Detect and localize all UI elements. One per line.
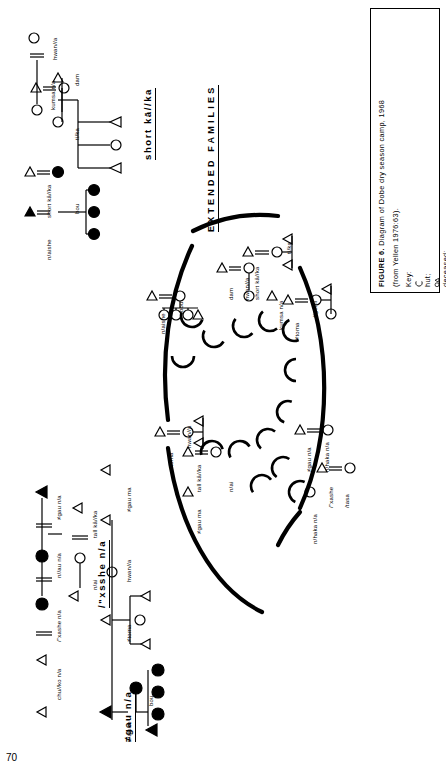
figure-source: (from Yellen 1976:63). [391, 208, 400, 287]
label-gau-na-b: ≠gau n/a [56, 495, 62, 520]
hut-group [172, 312, 305, 502]
camp-label-gau-ma: ≠gau ma [196, 509, 202, 534]
label-nnau-na-b: n//au n/a [56, 553, 62, 578]
camp-label-tasa: /tasa [344, 494, 350, 508]
genealogy-top-title: short kā//ka [142, 88, 156, 160]
genealogy-bottom-title: /"xsshe n/a [96, 540, 110, 608]
camp-label-bou: bou [178, 301, 184, 312]
camp-label-nhaka-na: n/haka n/a [324, 442, 330, 472]
label-kumsa-na: kumsa n/a [50, 81, 56, 110]
caption-line-2: (from Yellen 1976:63). [391, 15, 402, 287]
page-number: 70 [6, 752, 17, 763]
hut-icon [415, 279, 423, 287]
camp-label-tika: ti/ka [286, 242, 292, 254]
camp-label-gumi: //gumi [312, 300, 318, 318]
label-bou: bou [74, 203, 80, 214]
extended-families-heading: EXTENDED FAMILIES [206, 85, 219, 232]
camp-label-toma: ≠toma [294, 322, 300, 340]
key-deceased-label: deceased; [441, 250, 446, 287]
deceased-icon [433, 278, 441, 287]
camp-label-nhaka-na-2: n/haka n/a [312, 514, 318, 544]
camp-label-nai: n/ai [228, 482, 234, 492]
label-tika: ti/ka [74, 128, 80, 140]
camp-label-hwanna: hwan//a [244, 278, 250, 300]
caption-line-1: FIGURE 6. Diagram of Dobe dry season cam… [377, 15, 388, 287]
label-xashe-na-b: /"xashe n/a [56, 610, 62, 642]
caption-line-3: Key: hut; deceased; links between extend… [404, 15, 446, 287]
camp-label-tall-kaka: tall kā//ka [196, 464, 202, 492]
camp-boundary [165, 215, 324, 612]
camp-label-dam: dam [228, 288, 234, 300]
label-chuko-na-b: chu//ko n/a [56, 668, 62, 700]
figure-caption-box: FIGURE 6. Diagram of Dobe dry season cam… [370, 8, 440, 293]
camp-label-kumsa-na: kumsa n/a [278, 301, 284, 330]
label-short-kaka: short kā//ka [46, 185, 52, 218]
camp-label-hwanna-2: hwan//a [186, 426, 192, 448]
figure-label: FIGURE 6. [377, 248, 386, 287]
key-prefix: Key: [404, 271, 413, 287]
label-naishe-b: n/aishe [126, 721, 132, 742]
label-naishe: n/aishe [46, 239, 52, 260]
camp-label-gau-na: ≠gau n/a [306, 447, 312, 472]
label-nai-b: n/ai [92, 580, 98, 590]
figure-page: short kā//ka kumsa n/a hwan//a dam ti/ka… [0, 0, 446, 775]
label-gau-ma-b: ≠gau ma [126, 487, 132, 512]
label-bou-b: bou [148, 695, 154, 706]
camp-label-short-kaka: short kā//ka [254, 267, 260, 300]
genealogy-top [20, 33, 121, 240]
key-hut-label: hut; [423, 273, 432, 287]
label-toma-b: ≠toma [126, 624, 132, 642]
camp-label-naishe: n/aishe [160, 313, 166, 334]
camp-label-toma-2: ≠toma [168, 452, 174, 470]
camp-label-xashe: /"xashe [328, 487, 334, 508]
figure-title: Diagram of Dobe dry season camp, 1968 [377, 100, 386, 246]
label-hwanna-b: hwan//a [126, 560, 132, 582]
label-tall-kaka-b: tall kā//ka [92, 510, 98, 538]
label-hwanna: hwan//a [52, 38, 58, 60]
label-dam: dam [74, 74, 80, 86]
